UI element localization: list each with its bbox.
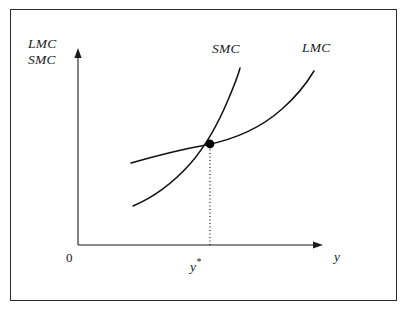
optimal-output-symbol: y xyxy=(190,259,196,274)
lmc-curve-label: LMC xyxy=(302,40,331,56)
optimal-output-asterisk: * xyxy=(197,256,202,267)
intersection-point-marker xyxy=(206,140,215,149)
plot-canvas xyxy=(0,0,408,311)
lmc-curve xyxy=(131,71,314,163)
y-axis-label: LMC SMC xyxy=(28,36,57,68)
smc-curve-label: SMC xyxy=(212,41,240,57)
origin-label: 0 xyxy=(66,250,73,265)
y-axis-label-line-smc: SMC xyxy=(28,52,57,68)
x-axis-arrowhead xyxy=(313,241,323,248)
smc-curve xyxy=(133,68,240,206)
x-axis-label: y xyxy=(334,249,340,265)
y-axis-label-line-lmc: LMC xyxy=(28,36,57,52)
y-axis-arrowhead xyxy=(74,48,81,58)
optimal-output-label: y* xyxy=(190,256,202,274)
figure-root: LMC SMC SMC LMC 0 y y* xyxy=(0,0,408,311)
